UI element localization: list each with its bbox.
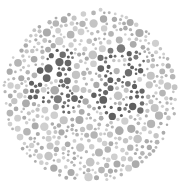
background-dot [172, 107, 175, 110]
background-dot [120, 168, 123, 171]
background-dot [32, 73, 38, 79]
background-dot [44, 152, 53, 161]
figure-dot [59, 79, 63, 83]
figure-dot [103, 82, 107, 86]
figure-dot [127, 63, 130, 66]
background-dot [22, 99, 30, 107]
background-dot [117, 59, 120, 62]
background-dot [58, 169, 62, 173]
figure-dot [62, 111, 65, 114]
background-dot [50, 164, 57, 171]
background-dot [148, 51, 151, 54]
background-dot [22, 116, 26, 120]
figure-dot [105, 111, 109, 115]
background-dot [128, 37, 131, 40]
figure-dot [104, 60, 107, 63]
background-dot [94, 128, 97, 131]
figure-dot [61, 67, 65, 71]
background-dot [40, 123, 48, 131]
background-dot [172, 84, 178, 90]
figure-dot [125, 69, 132, 76]
background-dot [4, 81, 7, 84]
background-dot [165, 101, 168, 104]
background-dot [51, 112, 59, 120]
figure-dot [47, 92, 49, 94]
background-dot [158, 86, 161, 89]
figure-dot [28, 95, 33, 100]
background-dot [121, 117, 128, 124]
background-dot [34, 34, 37, 37]
background-dot [19, 69, 22, 72]
figure-dot [114, 55, 117, 58]
background-dot [147, 120, 155, 128]
background-dot [111, 125, 114, 128]
background-dot [80, 138, 83, 141]
background-dot [132, 160, 140, 168]
figure-dot [133, 55, 138, 60]
figure-dot [125, 104, 128, 107]
figure-dot [44, 64, 52, 72]
background-dot [145, 30, 148, 33]
background-dot [51, 122, 55, 126]
background-dot [170, 102, 173, 105]
background-dot [103, 38, 106, 41]
background-dot [80, 156, 83, 159]
background-dot [158, 79, 163, 84]
background-dot [70, 118, 74, 122]
figure-dot [46, 58, 49, 61]
background-dot [123, 63, 126, 66]
figure-dot [57, 72, 62, 77]
background-dot [14, 107, 19, 112]
background-dot [72, 110, 75, 113]
figure-dot [67, 104, 70, 107]
background-dot [106, 123, 110, 127]
background-dot [8, 122, 13, 127]
background-dot [135, 144, 137, 146]
background-dot [60, 24, 63, 27]
background-dot [159, 122, 163, 126]
background-dot [67, 153, 70, 156]
background-dot [74, 48, 77, 51]
background-dot [115, 142, 118, 145]
background-dot [137, 77, 142, 82]
background-dot [129, 115, 133, 119]
background-dot [92, 43, 95, 46]
background-dot [119, 18, 122, 21]
background-dot [66, 129, 69, 132]
background-dot [135, 29, 143, 37]
figure-dot [38, 82, 43, 87]
figure-dot [97, 55, 103, 61]
background-dot [169, 97, 173, 101]
background-dot [77, 155, 80, 158]
background-dot [84, 173, 92, 181]
background-dot [115, 126, 124, 135]
background-dot [19, 48, 23, 52]
figure-dot [103, 105, 106, 108]
background-dot [138, 117, 141, 120]
background-dot [157, 126, 160, 129]
background-dot [57, 136, 61, 140]
background-dot [3, 90, 6, 93]
background-dot [85, 56, 89, 60]
background-dot [128, 136, 132, 140]
background-dot [53, 130, 57, 134]
background-dot [86, 124, 93, 131]
background-dot [161, 105, 164, 108]
background-dot [66, 159, 69, 162]
figure-dot [98, 94, 101, 97]
background-dot [140, 160, 144, 164]
background-dot [23, 142, 26, 145]
figure-dot [103, 90, 108, 95]
background-dot [82, 52, 86, 56]
background-dot [155, 146, 158, 149]
background-dot [122, 98, 125, 101]
background-dot [161, 63, 165, 67]
figure-dot [29, 81, 34, 86]
background-dot [155, 98, 158, 101]
background-dot [134, 37, 138, 41]
background-dot [61, 16, 68, 23]
background-dot [142, 126, 147, 131]
background-dot [125, 16, 129, 20]
figure-dot [108, 48, 114, 54]
figure-dot [98, 106, 101, 109]
